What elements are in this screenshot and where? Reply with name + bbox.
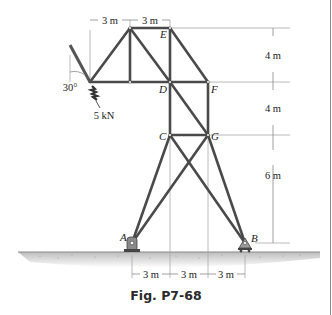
ground [18,252,320,268]
dim-right-2: 4 m [265,103,281,114]
truss-diagram: 3 m 3 m 4 m 4 m 6 m 3 m 3 m 3 m [0,0,332,315]
spring-icon [91,86,97,100]
member-left-diag [90,28,130,82]
right-dimensions: 4 m 4 m 6 m [265,28,281,243]
page-edge [330,0,331,315]
joint-label-b: B [251,232,258,244]
member-dg [170,82,208,135]
joint-label-d: D [158,83,167,95]
joint-label-e: E [159,28,167,40]
joint-label-f: F [210,83,218,95]
member-ef [170,28,208,82]
figure-caption: Fig. P7-68 [0,288,332,303]
dim-bottom-3: 3 m [218,269,234,280]
angle-arc [70,71,85,75]
dim-right-3: 6 m [265,170,281,181]
dim-right-1: 4 m [265,50,281,61]
joint-label-a: A [119,231,127,243]
bottom-dimensions: 3 m 3 m 3 m [132,269,245,280]
load-label: 5 kN [94,110,115,121]
angle-label: 30° [63,82,78,93]
support-b [238,238,252,252]
dim-bottom-2: 3 m [181,269,197,280]
dim-top-1: 3 m [102,15,118,26]
truss-members [90,28,245,243]
joint-label-g: G [211,130,219,142]
member-cb [170,135,245,243]
dim-bottom-1: 3 m [143,269,159,280]
joint-label-c: C [159,130,167,142]
member-ca [132,135,170,243]
member-gb [208,135,245,243]
dim-top-2: 3 m [142,15,158,26]
